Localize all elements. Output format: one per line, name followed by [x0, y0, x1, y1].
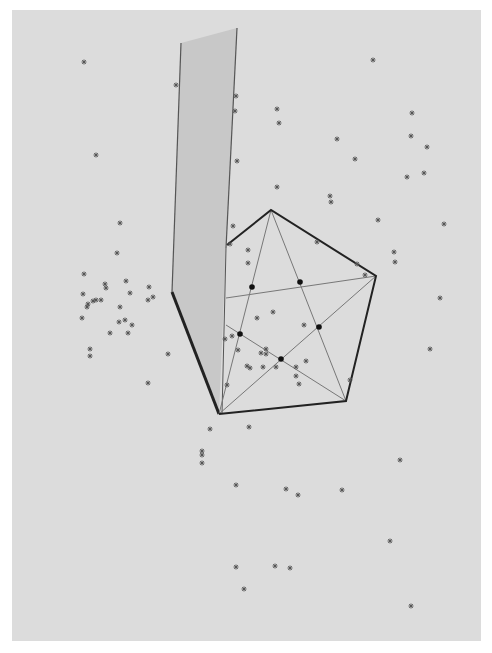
- asterisk-marker: [438, 296, 443, 301]
- asterisk-marker: [225, 383, 230, 388]
- asterisk-marker: [425, 145, 430, 150]
- asterisk-marker: [363, 273, 368, 278]
- asterisk-marker: [88, 354, 93, 359]
- asterisk-marker: [246, 261, 251, 266]
- asterisk-marker: [236, 348, 241, 353]
- asterisk-marker: [246, 248, 251, 253]
- diagonal-line: [226, 325, 346, 401]
- asterisk-marker: [353, 157, 358, 162]
- asterisk-marker: [264, 347, 269, 352]
- asterisk-marker: [409, 604, 414, 609]
- asterisk-marker: [398, 458, 403, 463]
- asterisk-marker: [128, 291, 133, 296]
- asterisk-marker: [99, 298, 104, 303]
- asterisk-marker: [151, 295, 156, 300]
- asterisk-marker: [208, 427, 213, 432]
- pentagram-diagonals: [219, 210, 376, 414]
- asterisk-marker: [147, 285, 152, 290]
- asterisk-marker: [231, 224, 236, 229]
- asterisk-marker: [200, 461, 205, 466]
- asterisk-marker: [371, 58, 376, 63]
- asterisk-marker: [297, 382, 302, 387]
- asterisk-marker: [146, 381, 151, 386]
- asterisk-marker: [442, 222, 447, 227]
- asterisk-marker: [123, 318, 128, 323]
- asterisk-marker: [94, 298, 99, 303]
- asterisk-marker: [376, 218, 381, 223]
- asterisk-marker: [103, 282, 108, 287]
- intersection-dot: [278, 356, 284, 362]
- asterisk-marker: [284, 487, 289, 492]
- asterisk-marker: [275, 185, 280, 190]
- scatter-3d-plot: [0, 0, 492, 653]
- asterisk-marker: [261, 365, 266, 370]
- asterisk-marker: [259, 351, 264, 356]
- asterisk-marker: [410, 111, 415, 116]
- asterisk-marker: [248, 366, 253, 371]
- asterisk-marker: [428, 347, 433, 352]
- asterisk-marker: [348, 378, 353, 383]
- asterisk-marker: [234, 483, 239, 488]
- asterisk-marker: [166, 352, 171, 357]
- asterisk-marker: [174, 83, 179, 88]
- asterisk-marker: [233, 109, 238, 114]
- asterisk-marker: [340, 488, 345, 493]
- vertical-plane: [172, 28, 237, 414]
- asterisk-marker: [234, 94, 239, 99]
- asterisk-marker: [355, 262, 360, 267]
- asterisk-marker: [296, 493, 301, 498]
- asterisk-marker: [146, 298, 151, 303]
- asterisk-marker: [228, 242, 233, 247]
- asterisk-marker: [304, 359, 309, 364]
- asterisk-marker: [329, 200, 334, 205]
- pentagon-edges: [219, 210, 376, 414]
- asterisk-marker: [409, 134, 414, 139]
- intersection-dot: [297, 279, 303, 285]
- asterisk-marker: [115, 251, 120, 256]
- asterisk-marker: [223, 337, 228, 342]
- asterisk-marker: [118, 221, 123, 226]
- asterisk-marker: [264, 352, 269, 357]
- asterisk-marker: [277, 121, 282, 126]
- asterisk-marker: [242, 587, 247, 592]
- asterisk-marker: [82, 60, 87, 65]
- asterisk-marker: [275, 107, 280, 112]
- scatter-markers: [80, 58, 447, 609]
- asterisk-marker: [126, 331, 131, 336]
- asterisk-marker: [422, 171, 427, 176]
- asterisk-marker: [315, 240, 320, 245]
- asterisk-marker: [288, 566, 293, 571]
- asterisk-marker: [82, 272, 87, 277]
- asterisk-marker: [302, 323, 307, 328]
- asterisk-marker: [124, 279, 129, 284]
- asterisk-marker: [234, 565, 239, 570]
- asterisk-marker: [108, 331, 113, 336]
- asterisk-marker: [328, 194, 333, 199]
- intersection-dot: [249, 284, 255, 290]
- asterisk-marker: [392, 250, 397, 255]
- diagonal-line: [226, 276, 376, 298]
- asterisk-marker: [405, 175, 410, 180]
- asterisk-marker: [118, 305, 123, 310]
- asterisk-marker: [255, 316, 260, 321]
- asterisk-marker: [230, 334, 235, 339]
- asterisk-marker: [393, 260, 398, 265]
- intersection-dot: [237, 331, 243, 337]
- asterisk-marker: [388, 539, 393, 544]
- asterisk-marker: [273, 564, 278, 569]
- asterisk-marker: [85, 305, 90, 310]
- asterisk-marker: [247, 425, 252, 430]
- asterisk-marker: [80, 316, 85, 321]
- asterisk-marker: [294, 365, 299, 370]
- pentagon-outline: [219, 210, 376, 414]
- asterisk-marker: [274, 365, 279, 370]
- diagonal-line: [271, 210, 346, 401]
- asterisk-marker: [200, 453, 205, 458]
- intersection-dot: [316, 324, 322, 330]
- asterisk-marker: [88, 347, 93, 352]
- asterisk-marker: [81, 292, 86, 297]
- asterisk-marker: [94, 153, 99, 158]
- asterisk-marker: [271, 310, 276, 315]
- asterisk-marker: [235, 159, 240, 164]
- asterisk-marker: [130, 323, 135, 328]
